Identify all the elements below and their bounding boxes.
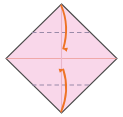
diagram-canvas: Origami valley-fold diagram [0,0,123,117]
origami-diagram: Origami valley-fold diagram [0,0,123,117]
